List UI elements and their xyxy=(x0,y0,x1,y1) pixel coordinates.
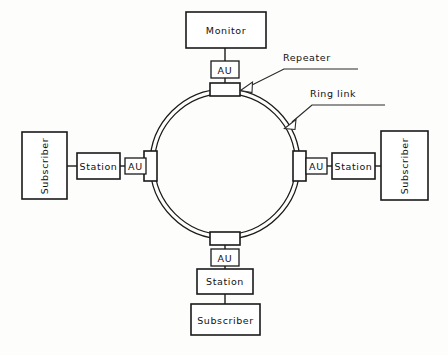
ring-link-annotation-label: Ring link xyxy=(310,88,356,99)
ring-link-annotation: Ring link xyxy=(285,88,386,130)
au-right-label: AU xyxy=(309,161,324,172)
repeater-arrow-head xyxy=(241,82,253,93)
subscriber-right-label: Subscriber xyxy=(399,138,410,195)
station-right-label: Station xyxy=(335,161,373,172)
repeater-right[interactable] xyxy=(293,151,306,181)
repeater-annotation: Repeater xyxy=(241,52,359,93)
ring-link-leader-line xyxy=(292,105,385,122)
repeater-annotation-label: Repeater xyxy=(283,52,331,63)
au-left-label: AU xyxy=(128,161,143,172)
repeater-bottom[interactable] xyxy=(210,232,240,245)
repeater-leader-line xyxy=(248,69,358,87)
ring-link-inner-circle xyxy=(155,94,296,235)
subscriber-left-label: Subscriber xyxy=(39,138,50,195)
ring-network-diagram: Monitor AU Subscriber Station AU AU Stat… xyxy=(0,0,448,355)
repeater-top[interactable] xyxy=(210,83,240,96)
monitor-label: Monitor xyxy=(206,25,246,36)
ring-link-outer-circle xyxy=(150,89,300,239)
station-left-label: Station xyxy=(80,161,118,172)
au-top-label: AU xyxy=(217,65,232,76)
subscriber-bottom-label: Subscriber xyxy=(197,315,254,326)
au-bottom-label: AU xyxy=(217,253,232,264)
station-bottom-label: Station xyxy=(206,276,244,287)
